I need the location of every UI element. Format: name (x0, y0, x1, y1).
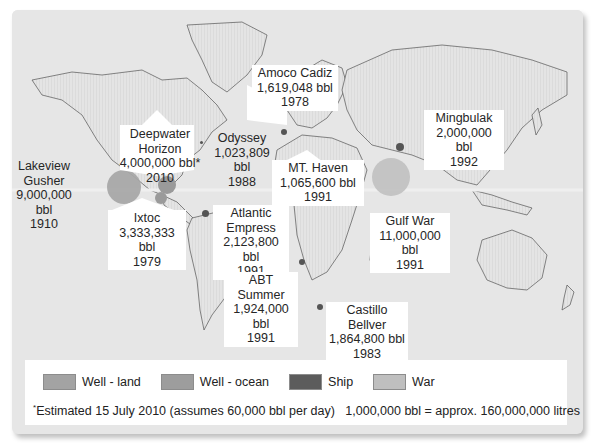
war-swatch (373, 374, 406, 390)
castillo-bellver-label: Castillo Bellver 1,864,800 bbl 1983 (326, 302, 408, 362)
ship-swatch (289, 374, 322, 390)
atlantic-empress-label: Atlantic Empress 2,123,800 bbl 1991 (213, 205, 289, 280)
mingbulak-label: Mingbulak 2,000,000 bbl 1992 (424, 110, 504, 170)
legend-item-well-ocean: Well - ocean (161, 374, 269, 390)
odyssey-label: Odyssey 1,023,809 bbl 1988 (202, 130, 282, 190)
amoco-cadiz-label: Amoco Cadiz 1,619,048 bbl 1978 (252, 65, 338, 111)
abt-summer-label: ABT Summer 1,924,000 bbl 1991 (224, 272, 298, 347)
gulf-war-label: Gulf War 11,000,000 bbl 1991 (370, 213, 450, 273)
deepwater-horizon-label: Deepwater Horizon 4,000,000 bbl* 2010 (115, 126, 205, 186)
legend-item-well-land: Well - land (43, 374, 141, 390)
footnote: *Estimated 15 July 2010 (assumes 60,000 … (33, 403, 583, 418)
legend: Well - land Well - ocean Ship War *Estim… (25, 360, 567, 425)
atlantic-empress-marker (202, 210, 209, 217)
lakeview-gusher-label: Lakeview Gusher 9,000,000 bbl 1910 (12, 158, 76, 233)
mingbulak-marker (396, 143, 404, 151)
gulf-war-marker (372, 158, 410, 196)
legend-item-ship: Ship (289, 374, 353, 390)
castillo-bellver-marker (317, 304, 323, 310)
mt-haven-label: MT. Haven 1,065,600 bbl 1991 (272, 160, 364, 206)
abt-summer-marker (299, 259, 305, 265)
map-panel: Lakeview Gusher 9,000,000 bbl 1910 Deepw… (12, 10, 583, 434)
well-ocean-swatch (161, 374, 194, 390)
legend-item-war: War (373, 374, 434, 390)
ixtoc-label: Ixtoc 3,333,333 bbl 1979 (108, 210, 186, 270)
well-land-swatch (43, 374, 76, 390)
legend-row: Well - land Well - ocean Ship War (43, 374, 455, 390)
